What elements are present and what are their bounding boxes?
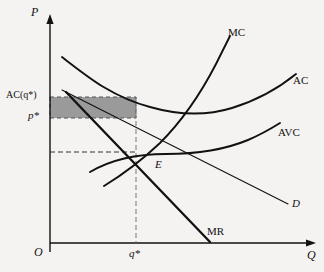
y-axis-arrow (46, 14, 53, 24)
diagram-canvas (0, 0, 324, 272)
mr-curve (66, 92, 210, 242)
curve-label-mc: MC (228, 27, 245, 38)
loss-rectangle (50, 97, 136, 118)
curve-label-avc: AVC (278, 127, 300, 138)
demand-curve (62, 90, 288, 204)
curve-label-mr: MR (207, 226, 224, 237)
y-axis-label: P (31, 6, 38, 18)
economics-diagram: P Q O AC(q*) p* q* MC AC AVC D MR E (0, 0, 324, 272)
curve-label-ac: AC (293, 75, 308, 86)
x-axis-label: Q (307, 249, 316, 261)
origin-label: O (34, 246, 43, 258)
curve-label-d: D (292, 198, 300, 209)
point-label-e: E (155, 159, 162, 170)
y-tick-ac-qstar: AC(q*) (6, 90, 37, 100)
y-tick-p-star: p* (28, 110, 39, 121)
x-axis-arrow (306, 239, 316, 246)
x-tick-q-star: q* (129, 248, 140, 259)
